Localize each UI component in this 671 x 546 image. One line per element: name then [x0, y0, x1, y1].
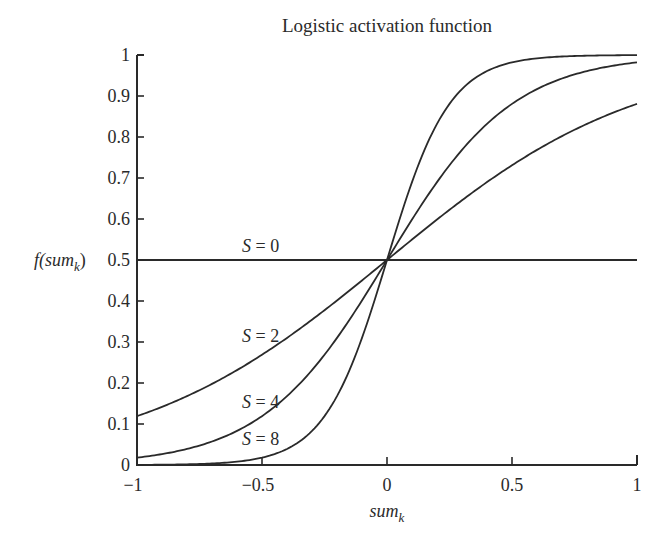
chart-title: Logistic activation function [282, 15, 493, 36]
curves-group [137, 55, 637, 465]
y-tick-label: 0.2 [108, 373, 131, 393]
y-tick-label: 0.7 [108, 168, 131, 188]
y-tick-label: 0.8 [108, 127, 131, 147]
x-tick-label: 1 [633, 475, 642, 495]
y-tick-label: 0.1 [108, 414, 131, 434]
x-tick-label: 0 [383, 475, 392, 495]
y-tick-label: 0.6 [108, 209, 131, 229]
x-tick-label: −1 [123, 475, 142, 495]
y-tick-label: 1 [121, 45, 130, 65]
logistic-activation-chart: Logistic activation function 00.10.20.30… [0, 0, 671, 546]
y-tick-label: 0.5 [108, 250, 131, 270]
x-tick-label: 0.5 [501, 475, 524, 495]
curve-label-s-2: S = 2 [242, 326, 279, 346]
y-tick-label: 0.9 [108, 86, 131, 106]
x-ticks: −1−0.500.51 [123, 457, 641, 495]
curve-label-s-0: S = 0 [242, 236, 279, 256]
curve-label-s-8: S = 8 [242, 429, 279, 449]
curve-label-s-4: S = 4 [242, 392, 279, 412]
y-axis-label: f(sumk) [34, 250, 86, 274]
x-axis-label: sumk [370, 501, 405, 525]
y-tick-label: 0.3 [108, 332, 131, 352]
y-tick-label: 0.4 [108, 291, 131, 311]
y-tick-label: 0 [121, 455, 130, 475]
y-ticks: 00.10.20.30.40.50.60.70.80.91 [108, 45, 145, 475]
x-tick-label: −0.5 [242, 475, 275, 495]
